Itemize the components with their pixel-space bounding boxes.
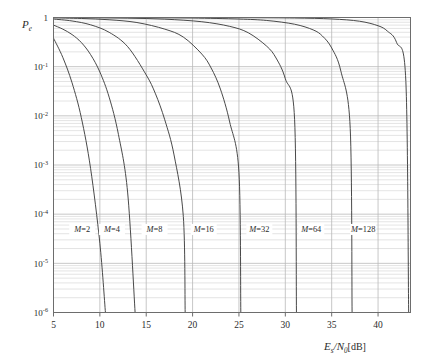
curve-label-m4: M=4	[103, 225, 121, 234]
curve-label-m16: M=16	[193, 225, 214, 234]
x-tick-label: 10	[95, 320, 105, 330]
curve-label-m64: M=64	[300, 225, 322, 234]
x-tick-label: 25	[234, 320, 244, 330]
x-tick-label: 30	[281, 320, 291, 330]
y-tick-label: 1	[44, 13, 49, 23]
curve-label-m8: M=8	[146, 225, 163, 234]
x-tick-label: 40	[373, 320, 383, 330]
x-tick-label: 15	[141, 320, 151, 330]
chart-background	[0, 0, 428, 364]
chart-figure: 110-110-210-310-410-510-6 51015202530354…	[0, 0, 428, 364]
x-tick-label: 35	[327, 320, 337, 330]
x-tick-label: 20	[188, 320, 198, 330]
curve-label-m128: M=128	[350, 225, 375, 234]
error-probability-chart: 110-110-210-310-410-510-6 51015202530354…	[0, 0, 428, 364]
curve-label-m32: M=32	[248, 225, 269, 234]
x-tick-label: 5	[51, 320, 56, 330]
curve-label-m2: M=2	[73, 225, 90, 234]
